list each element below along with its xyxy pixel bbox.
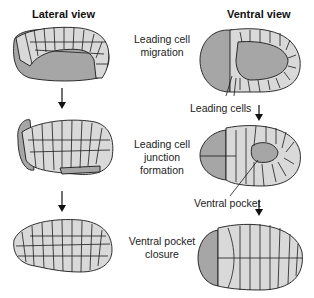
stage-label-line: closure [112, 248, 212, 261]
ventral-embryo-stage-3 [198, 224, 302, 290]
callout-leading-cells: Leading cells [190, 102, 251, 114]
stage-label-junction-formation: Leading cell junction formation [112, 138, 212, 177]
stage-label-migration: Leading cell migration [112, 33, 212, 59]
ventral-view-header: Ventral view [227, 8, 291, 20]
stage-label-line: Leading cell [112, 33, 212, 46]
stage-label-line: Leading cell [112, 138, 212, 151]
ventral-embryo-stage-2 [200, 126, 300, 196]
stage-label-line: Ventral pocket [112, 235, 212, 248]
lateral-embryo-stage-3 [14, 220, 112, 272]
stage-label-line: junction [112, 151, 212, 164]
lateral-embryo-stage-2 [18, 120, 113, 175]
lateral-view-header: Lateral view [32, 8, 95, 20]
lateral-arrow-1 [58, 88, 66, 109]
callout-ventral-pocket: Ventral pocket [194, 197, 261, 209]
stage-label-pocket-closure: Ventral pocket closure [112, 235, 212, 261]
ventral-embryo-stage-1 [200, 29, 300, 96]
stage-label-line: migration [112, 46, 212, 59]
stage-label-line: formation [112, 164, 212, 177]
lateral-arrow-2 [58, 191, 66, 212]
ventral-arrow-1 [255, 105, 263, 121]
lateral-embryo-stage-1 [14, 27, 110, 81]
